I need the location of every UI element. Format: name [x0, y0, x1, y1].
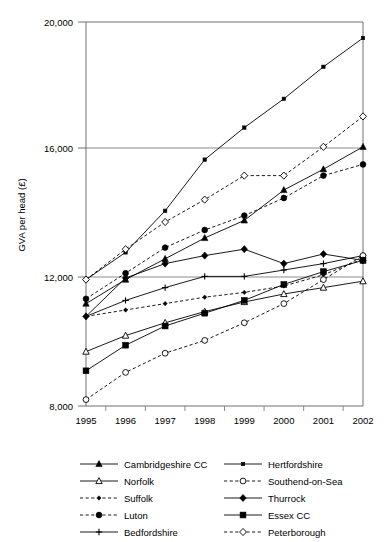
- legend-label: Suffolk: [124, 493, 153, 504]
- legend-marker: [96, 529, 102, 535]
- data-point-marker: [122, 297, 128, 303]
- data-point-marker: [202, 227, 208, 233]
- x-axis-ticks: [106, 406, 343, 411]
- x-tick-label: 2001: [313, 415, 334, 426]
- gva-per-head-line-chart: GVA per head (£) 20,000 16,000 12,000 8,…: [0, 0, 387, 542]
- data-point-marker: [360, 143, 366, 149]
- x-tick-label: 2002: [352, 415, 373, 426]
- data-point-marker: [124, 308, 128, 312]
- series-line: [86, 256, 363, 317]
- data-point-marker: [203, 158, 206, 161]
- chart-legend: Cambridgeshire CCNorfolkSuffolkLutonBedf…: [80, 459, 343, 538]
- legend-item-peterborough[interactable]: Peterborough: [224, 527, 326, 538]
- data-point-marker: [321, 173, 327, 179]
- data-point-marker: [202, 235, 208, 241]
- legend-label: Essex CC: [268, 510, 310, 521]
- x-tick-label: 2000: [273, 415, 294, 426]
- legend-marker: [240, 494, 246, 501]
- data-point-marker: [281, 267, 287, 273]
- y-tick-label: 12,000: [44, 272, 73, 283]
- legend-label: Luton: [124, 510, 148, 521]
- data-point-marker: [203, 295, 207, 299]
- data-point-marker: [360, 258, 366, 264]
- series-layer: [83, 36, 367, 402]
- legend-marker: [240, 528, 247, 535]
- series-line: [86, 38, 363, 280]
- data-point-marker: [122, 246, 129, 253]
- x-tick-label: 1996: [115, 415, 136, 426]
- legend-marker: [240, 512, 246, 518]
- data-point-marker: [162, 245, 168, 251]
- legend-marker: [97, 496, 101, 500]
- legend-label: Bedfordshire: [124, 527, 178, 538]
- data-point-marker: [83, 397, 89, 403]
- data-point-marker: [201, 196, 208, 203]
- data-point-marker: [202, 252, 208, 259]
- x-tick-label: 1998: [194, 415, 215, 426]
- data-point-marker: [280, 172, 287, 179]
- y-tick-label: 8,000: [49, 401, 73, 412]
- data-point-marker: [202, 310, 208, 316]
- x-tick-label: 1995: [75, 415, 96, 426]
- data-point-marker: [320, 250, 326, 257]
- data-point-marker: [162, 323, 168, 329]
- y-axis-tick-labels: 20,000 16,000 12,000 8,000: [44, 17, 73, 412]
- data-point-marker: [163, 209, 166, 212]
- data-point-marker: [241, 213, 247, 219]
- legend-marker: [96, 512, 102, 518]
- legend-label: Norfolk: [124, 476, 154, 487]
- data-point-marker: [83, 348, 89, 354]
- legend-item-hertfordshire[interactable]: Hertfordshire: [224, 459, 323, 470]
- y-tick-label: 16,000: [44, 143, 73, 154]
- series-peterborough: [83, 113, 367, 283]
- series-line: [86, 249, 363, 316]
- data-point-marker: [241, 172, 248, 179]
- data-point-marker: [243, 126, 246, 129]
- legend-label: Cambridgeshire CC: [124, 459, 208, 470]
- legend-item-thurrock[interactable]: Thurrock: [224, 493, 306, 504]
- y-axis-title: GVA per head (£): [16, 178, 27, 251]
- data-point-marker: [360, 113, 367, 120]
- legend-item-southend-on-sea[interactable]: Southend-on-Sea: [224, 476, 343, 487]
- data-point-marker: [162, 218, 169, 225]
- data-point-marker: [322, 65, 325, 68]
- legend-label: Hertfordshire: [268, 459, 323, 470]
- data-point-marker: [241, 298, 247, 304]
- data-point-marker: [320, 143, 327, 150]
- data-point-marker: [241, 273, 247, 279]
- data-point-marker: [242, 290, 246, 294]
- data-point-marker: [162, 350, 168, 356]
- series-line: [86, 281, 363, 351]
- data-point-marker: [163, 301, 167, 305]
- legend-item-suffolk[interactable]: Suffolk: [80, 493, 153, 504]
- data-point-marker: [321, 269, 327, 275]
- legend-label: Thurrock: [268, 493, 306, 504]
- data-point-marker: [360, 162, 366, 168]
- data-point-marker: [123, 342, 129, 348]
- data-point-marker: [281, 187, 287, 193]
- data-point-marker: [83, 368, 89, 374]
- data-point-marker: [360, 278, 366, 284]
- x-tick-label: 1999: [234, 415, 255, 426]
- legend-label: Peterborough: [268, 527, 326, 538]
- gridlines: [86, 148, 363, 277]
- x-axis-tick-labels: 19951996199719981999200020012002: [75, 415, 373, 426]
- data-point-marker: [282, 97, 285, 100]
- data-point-marker: [281, 282, 287, 288]
- data-point-marker: [162, 284, 168, 290]
- legend-item-essex-cc[interactable]: Essex CC: [224, 510, 310, 521]
- data-point-marker: [321, 277, 327, 283]
- data-point-marker: [320, 166, 326, 172]
- y-axis-ticks: [78, 22, 86, 406]
- data-point-marker: [241, 246, 247, 253]
- legend-item-bedfordshire[interactable]: Bedfordshire: [80, 527, 178, 538]
- data-point-marker: [83, 296, 89, 302]
- data-point-marker: [281, 301, 287, 307]
- chart-figure: GVA per head (£) 20,000 16,000 12,000 8,…: [0, 0, 387, 542]
- legend-item-luton[interactable]: Luton: [80, 510, 148, 521]
- data-point-marker: [241, 320, 247, 326]
- series-hertfordshire: [84, 36, 364, 281]
- legend-item-cambridgeshire-cc[interactable]: Cambridgeshire CC: [80, 459, 208, 470]
- legend-item-norfolk[interactable]: Norfolk: [80, 476, 154, 487]
- y-tick-label: 20,000: [44, 17, 73, 28]
